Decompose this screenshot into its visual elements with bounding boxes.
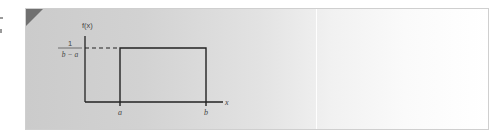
cropped-text-mark	[0, 17, 3, 19]
y-axis-label: f(x)	[82, 21, 93, 30]
density-rectangle	[120, 48, 206, 106]
figure-box: f(x) x 1 b − a a b	[25, 8, 489, 130]
height-label-denominator: b − a	[62, 50, 79, 59]
tick-label-b: b	[204, 108, 208, 117]
x-axis-label: x	[224, 98, 229, 107]
height-label-numerator: 1	[68, 39, 72, 48]
tick-label-a: a	[118, 108, 122, 117]
uniform-distribution-plot: f(x) x 1 b − a a b	[26, 9, 488, 129]
cropped-text-mark	[0, 29, 2, 33]
